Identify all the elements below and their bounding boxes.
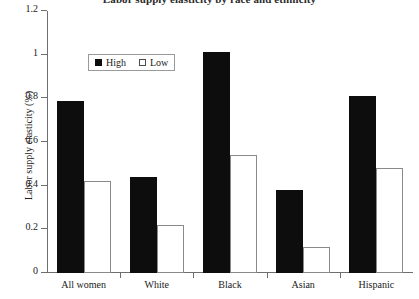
legend-label: Low [150, 58, 168, 68]
legend-entry-low: Low [139, 58, 168, 68]
y-axis-tick-label: 0.4 [26, 178, 39, 189]
x-axis-category-label: All women [61, 279, 106, 290]
y-axis-tick: 0.2 [41, 228, 47, 229]
y-axis-tick-label: 0.6 [26, 134, 39, 145]
legend-entry-high: High [95, 58, 126, 68]
bar-low [303, 247, 330, 273]
legend-label: High [106, 58, 126, 68]
bar-low [84, 181, 111, 273]
bar-high [130, 177, 157, 273]
hollow-square-icon [139, 59, 146, 66]
x-axis-category-label: Asian [292, 279, 315, 290]
y-axis-tick: 1 [41, 54, 47, 55]
x-axis-tick [267, 273, 268, 278]
y-axis-tick-label: 1 [33, 47, 38, 58]
filled-square-icon [95, 59, 102, 66]
bar-high [57, 101, 84, 273]
x-axis-tick [120, 273, 121, 278]
bar-low [157, 225, 184, 273]
x-axis-category-label: Black [218, 279, 241, 290]
x-axis-category-label: Hispanic [359, 279, 395, 290]
y-axis-tick: 0.4 [41, 185, 47, 186]
y-axis-tick-label: 0.8 [26, 90, 39, 101]
bar-low [230, 155, 257, 273]
y-axis-tick-label: 0.2 [26, 221, 39, 232]
y-axis-tick-label: 1.2 [26, 3, 39, 14]
y-axis-tick: 0.8 [41, 97, 47, 98]
x-axis-tick [193, 273, 194, 278]
y-axis-line [47, 11, 48, 273]
y-axis-tick-label: 0 [33, 265, 38, 276]
y-axis-tick: 0.6 [41, 141, 47, 142]
bar-chart: Labor supply elasticity by race and ethn… [0, 0, 419, 299]
chart-legend: HighLow [88, 54, 175, 71]
x-axis-tick [340, 273, 341, 278]
x-axis-category-label: White [145, 279, 169, 290]
bar-high [349, 96, 376, 273]
y-axis-title: Labor supply elasticity (%) [23, 56, 34, 236]
bar-low [376, 168, 403, 273]
y-axis-tick: 1.2 [41, 10, 47, 11]
y-axis-tick: 0 [41, 272, 47, 273]
plot-area: 00.20.40.60.811.2 [47, 11, 413, 273]
chart-title: Labor supply elasticity by race and ethn… [0, 0, 419, 5]
bar-high [203, 52, 230, 273]
bar-high [276, 190, 303, 273]
